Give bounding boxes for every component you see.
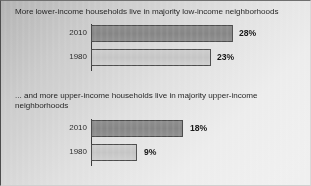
- chart-title-upper-income: ... and more upper-income households liv…: [15, 91, 296, 112]
- value-label-2010: 28%: [239, 28, 256, 38]
- bar-2010: [91, 120, 183, 137]
- bar-row: 1980 23%: [1, 49, 310, 66]
- category-label-2010: 2010: [41, 123, 87, 132]
- bar-row: 2010 28%: [1, 25, 310, 42]
- plot-area-upper-income: 2010 18% 1980 9%: [1, 117, 310, 167]
- bar-row: 1980 9%: [1, 144, 310, 161]
- category-label-1980: 1980: [41, 52, 87, 61]
- chart-lower-income: More lower-income households live in maj…: [1, 7, 310, 72]
- bar-2010: [91, 25, 233, 42]
- value-label-1980: 9%: [144, 147, 156, 157]
- plot-area-lower-income: 2010 28% 1980 23%: [1, 22, 310, 72]
- chart-title-lower-income: More lower-income households live in maj…: [15, 7, 296, 17]
- chart-upper-income: ... and more upper-income households liv…: [1, 91, 310, 167]
- value-label-1980: 23%: [217, 52, 234, 62]
- value-label-2010: 18%: [190, 123, 207, 133]
- bar-1980: [91, 144, 137, 161]
- bar-row: 2010 18%: [1, 120, 310, 137]
- scanned-page: More lower-income households live in maj…: [0, 0, 311, 186]
- category-label-2010: 2010: [41, 28, 87, 37]
- bar-1980: [91, 49, 211, 66]
- category-label-1980: 1980: [41, 147, 87, 156]
